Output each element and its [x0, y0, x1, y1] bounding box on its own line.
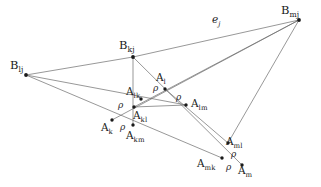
vertex-label-A_l-subscript: l [164, 78, 166, 86]
vertex-label-A_m-subscript: m [246, 171, 253, 179]
edge-label-e_j-subscript: j [218, 20, 220, 28]
vertex-label-B_mj: Bmj [281, 5, 299, 19]
vertex-label-B_lj: Blj [10, 60, 23, 74]
vertex-label-B_lj-subscript: lj [18, 65, 23, 74]
vertex-label-A_l-base: A [156, 71, 164, 83]
rho-label-rho-3: ρ [118, 101, 123, 110]
vertex-label-A_ml: Aml [226, 136, 243, 150]
node-dot-B_lj [24, 73, 28, 77]
rho-label-rho-1: ρ [153, 84, 158, 93]
node-dot-A_mk [220, 156, 223, 159]
vertex-label-A_kl-base: A [133, 109, 141, 121]
vertex-label-A_mk-subscript: mk [205, 164, 216, 172]
vertex-label-A_m: Am [238, 165, 252, 179]
edge-B_lj-B_kj [26, 57, 133, 75]
vertex-label-A_km-base: A [126, 129, 134, 141]
nodes-group [24, 18, 301, 167]
rho-label-rho-4: ρ [120, 123, 125, 132]
edge-A_kl-A_lm [134, 105, 186, 107]
vertex-label-A_kl: Akl [133, 110, 147, 124]
vertex-label-A_kl-subscript: kl [141, 116, 148, 124]
rho-label-rho-2: ρ [176, 93, 181, 102]
geometry-figure: BljBkjBmjAlAlkAklAlmAkAkmAmlAmkAm ej ρρρ… [0, 0, 321, 187]
node-dot-A_lm [184, 103, 187, 106]
vertex-label-A_km: Akm [126, 130, 145, 144]
vertex-label-A_lm: Alm [191, 98, 208, 112]
vertex-label-A_m-base: A [238, 164, 246, 176]
node-dot-A_l [163, 87, 166, 90]
vertex-label-B_kj-subscript: kj [127, 45, 134, 54]
vertex-label-A_k-base: A [101, 121, 109, 133]
vertex-label-A_ml-base: A [226, 135, 234, 147]
vertex-label-A_k-subscript: k [109, 128, 113, 136]
vertex-label-B_kj: Bkj [119, 40, 135, 54]
vertex-label-A_lk-subscript: lk [134, 92, 141, 100]
edge-label-e_j: ej [212, 14, 220, 28]
vertex-label-A_mk: Amk [197, 158, 216, 172]
vertex-label-A_lk-base: A [126, 85, 134, 97]
rho-label-rho-6: ρ [226, 163, 231, 172]
node-dot-B_kj [131, 55, 135, 59]
edges-group [26, 20, 299, 165]
vertex-label-A_lm-subscript: lm [199, 104, 208, 112]
vertex-label-A_lm-base: A [191, 97, 199, 109]
diagram-canvas [0, 0, 321, 187]
vertex-label-B_mj-subscript: mj [289, 10, 299, 19]
vertex-label-A_mk-base: A [197, 157, 205, 169]
vertex-label-A_lk: Alk [126, 86, 140, 100]
vertex-label-A_km-subscript: km [134, 136, 145, 144]
vertex-label-A_k: Ak [101, 122, 113, 136]
rho-label-rho-5: ρ [231, 150, 236, 159]
